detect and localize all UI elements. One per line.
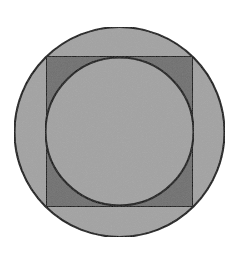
diagram-canvas bbox=[0, 0, 236, 254]
geometry-figure bbox=[0, 0, 236, 254]
inner-circle bbox=[46, 58, 194, 206]
